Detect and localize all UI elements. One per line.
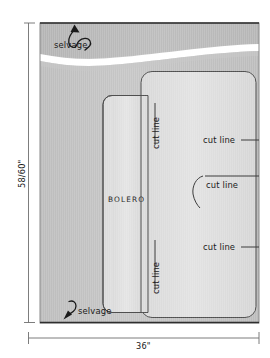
fabric-layout-diagram: selvage selvage BOLERO cut line cut line… <box>0 0 270 358</box>
panel-bolero <box>103 96 148 313</box>
cut-line-label-middle-right: cut line <box>206 181 238 189</box>
cut-line-label-upper-right: cut line <box>203 136 235 144</box>
cut-line-label-lower-right: cut line <box>203 243 235 251</box>
cut-line-label-upper-center: cut line <box>152 117 160 149</box>
dimension-label-height: 58/60" <box>18 159 26 188</box>
dimension-label-width: 36" <box>136 342 151 350</box>
selvage-label-top: selvage <box>54 41 87 49</box>
selvage-label-bottom: selvage <box>78 307 111 315</box>
layout-svg <box>0 0 270 358</box>
bolero-label: BOLERO <box>108 196 145 203</box>
cut-line-label-lower-center: cut line <box>152 262 160 294</box>
